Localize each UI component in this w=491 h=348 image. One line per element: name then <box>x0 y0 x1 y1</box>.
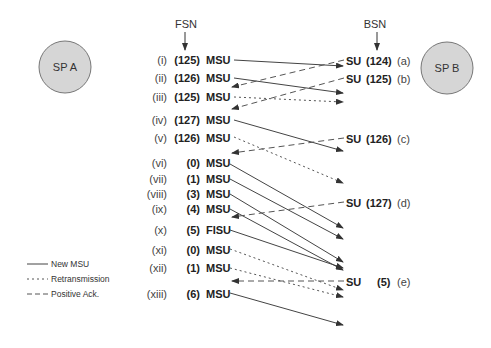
su-letter: (c) <box>397 133 410 145</box>
row-seq: (125) <box>174 54 200 66</box>
su-seq: (125) <box>366 73 392 85</box>
row-numeral: (iii) <box>152 91 167 103</box>
right-row: SU(127)(d) <box>346 197 410 209</box>
su-letter: (a) <box>397 55 410 67</box>
su-seq: (5) <box>377 276 391 288</box>
arrow-iv <box>234 120 343 151</box>
row-numeral: (v) <box>154 132 167 144</box>
sp-a-label: SP A <box>53 61 78 73</box>
left-row: (iv)(127)MSU <box>152 114 231 126</box>
arrow-ii <box>234 78 343 93</box>
left-row: (vi)(0)MSU <box>152 157 231 169</box>
row-numeral: (xi) <box>152 244 167 256</box>
su-type: SU <box>346 73 361 85</box>
legend: New MSU Retransmission Positive Ack. <box>27 259 110 299</box>
row-seq: (126) <box>174 72 200 84</box>
row-numeral: (xii) <box>149 262 167 274</box>
right-row: SU(124)(a) <box>346 55 410 67</box>
ack-c <box>232 138 344 153</box>
left-row: (viii)(3)MSU <box>147 188 231 200</box>
fsn-header: FSN <box>175 18 197 50</box>
row-type: MSU <box>206 132 231 144</box>
row-numeral: (ix) <box>152 203 167 215</box>
row-seq: (126) <box>174 132 200 144</box>
row-numeral: (vi) <box>152 157 167 169</box>
ack-b <box>232 78 344 109</box>
arrow-xi <box>230 249 343 290</box>
left-rows: (i)(125)MSU (ii)(126)MSU (iii)(125)MSU (… <box>147 54 231 300</box>
row-type: MSU <box>206 203 231 215</box>
row-type: MSU <box>206 188 231 200</box>
left-row: (xii)(1)MSU <box>149 262 230 274</box>
row-type: MSU <box>206 244 231 256</box>
row-seq: (127) <box>174 114 200 126</box>
left-row: (ii)(126)MSU <box>155 72 231 84</box>
row-numeral: (i) <box>157 54 167 66</box>
left-row: (iii)(125)MSU <box>152 91 230 103</box>
ack-a <box>232 60 344 87</box>
su-type: SU <box>346 276 361 288</box>
right-row: SU(125)(b) <box>346 73 410 85</box>
new-msu-arrows <box>230 60 343 325</box>
row-seq: (1) <box>187 173 201 185</box>
row-numeral: (xiii) <box>147 288 167 300</box>
left-row: (i)(125)MSU <box>157 54 230 66</box>
row-type: MSU <box>206 91 231 103</box>
row-type: MSU <box>206 288 231 300</box>
node-sp-b: SP B <box>421 42 473 94</box>
row-seq: (125) <box>174 91 200 103</box>
row-seq: (6) <box>187 288 201 300</box>
row-numeral: (vii) <box>149 173 167 185</box>
row-type: MSU <box>206 173 231 185</box>
row-type: FISU <box>206 224 231 236</box>
right-row: SU(5)(e) <box>346 276 410 288</box>
row-type: MSU <box>206 262 231 274</box>
row-seq: (1) <box>187 262 201 274</box>
arrow-xiii <box>230 293 343 325</box>
left-row: (x)(5)FISU <box>154 224 231 236</box>
su-seq: (127) <box>366 197 392 209</box>
su-letter: (e) <box>397 276 410 288</box>
su-type: SU <box>346 197 361 209</box>
right-row: SU(126)(c) <box>346 133 410 145</box>
left-row: (xi)(0)MSU <box>152 244 231 256</box>
row-type: MSU <box>206 114 231 126</box>
su-letter: (d) <box>397 197 410 209</box>
bsn-header: BSN <box>364 18 387 50</box>
row-seq: (3) <box>187 188 201 200</box>
arrow-viii <box>230 194 343 262</box>
positive-ack-arrows <box>232 60 344 281</box>
left-row: (vii)(1)MSU <box>149 173 230 185</box>
row-numeral: (ii) <box>155 72 167 84</box>
fsn-label: FSN <box>175 18 197 30</box>
arrow-vii <box>230 179 343 239</box>
row-numeral: (iv) <box>152 114 167 126</box>
row-numeral: (viii) <box>147 188 167 200</box>
su-seq: (124) <box>366 55 392 67</box>
diagram-canvas: SP A SP B FSN BSN (i)(125)MSU (ii)(126)M… <box>0 0 491 348</box>
row-seq: (0) <box>187 244 201 256</box>
su-seq: (126) <box>366 133 392 145</box>
row-numeral: (x) <box>154 224 167 236</box>
arrow-iii <box>234 97 343 102</box>
arrow-xii <box>230 268 343 297</box>
row-seq: (4) <box>187 203 201 215</box>
left-row: (v)(126)MSU <box>154 132 230 144</box>
row-seq: (5) <box>187 224 201 236</box>
arrow-x <box>230 230 343 268</box>
row-type: MSU <box>206 72 231 84</box>
left-row: (ix)(4)MSU <box>152 203 231 215</box>
su-letter: (b) <box>397 73 410 85</box>
row-type: MSU <box>206 157 231 169</box>
legend-label-new-msu: New MSU <box>51 259 89 269</box>
arrow-i <box>234 60 343 66</box>
row-seq: (0) <box>187 157 201 169</box>
left-row: (xiii)(6)MSU <box>147 288 231 300</box>
node-sp-a: SP A <box>39 41 91 93</box>
sp-b-label: SP B <box>435 62 460 74</box>
retransmission-arrows <box>230 97 343 297</box>
su-type: SU <box>346 55 361 67</box>
legend-label-positive-ack: Positive Ack. <box>51 289 99 299</box>
bsn-label: BSN <box>364 18 387 30</box>
su-type: SU <box>346 133 361 145</box>
